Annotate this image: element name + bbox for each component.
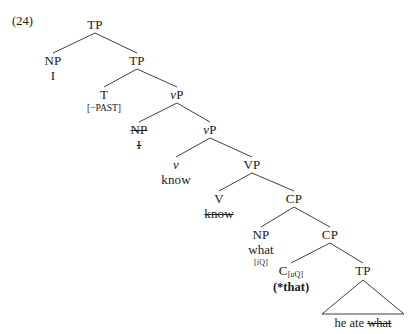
tree-node-tp-root: TP bbox=[87, 18, 103, 33]
tree-node-v-head: V know bbox=[204, 192, 233, 221]
tree-edge bbox=[104, 69, 137, 87]
tree-edge bbox=[261, 207, 294, 227]
node-label: CP bbox=[286, 192, 302, 207]
tree-node-c-head: C[uQ] (*that) bbox=[273, 264, 309, 294]
node-label: C[uQ] bbox=[273, 264, 309, 280]
tree-edge bbox=[294, 207, 330, 227]
tree-node-vp-big: VP bbox=[243, 158, 260, 173]
node-label: vP bbox=[203, 123, 216, 138]
node-word: I bbox=[130, 138, 147, 153]
node-label: v bbox=[161, 158, 190, 173]
node-label: TP bbox=[355, 264, 371, 279]
tree-node-v-little: v know bbox=[161, 158, 190, 187]
node-label: V bbox=[204, 192, 233, 207]
triangle-text: he ate what bbox=[335, 316, 392, 331]
node-label: TP bbox=[129, 54, 145, 69]
tree-edge bbox=[330, 243, 363, 263]
tree-node-vp-little-bar: vP bbox=[203, 123, 216, 138]
node-feature-iq: [iQ] bbox=[248, 259, 274, 268]
node-label: VP bbox=[243, 158, 260, 173]
node-word-that: (*that) bbox=[273, 280, 309, 294]
tree-node-vp-little-top: vP bbox=[170, 88, 183, 103]
node-label: NP bbox=[44, 54, 61, 69]
tree-node-cp-bar: CP bbox=[322, 228, 338, 243]
tree-edge bbox=[139, 103, 177, 122]
tree-edge bbox=[210, 138, 252, 157]
tree-node-tp-embedded: TP bbox=[355, 264, 371, 279]
tree-edge bbox=[219, 173, 252, 191]
tree-edge bbox=[176, 138, 210, 157]
tree-edges bbox=[0, 0, 410, 334]
tree-edge bbox=[137, 69, 177, 87]
node-label: NP bbox=[248, 228, 274, 243]
node-word: what bbox=[248, 243, 274, 258]
node-label: vP bbox=[170, 88, 183, 103]
tree-edge bbox=[291, 243, 330, 263]
node-label: T bbox=[87, 88, 121, 103]
triangle-abbreviation bbox=[322, 280, 404, 314]
tree-node-np-subject: NP I bbox=[44, 54, 61, 83]
tree-node-t-head: T [−PAST] bbox=[87, 88, 121, 113]
tree-node-cp-top: CP bbox=[286, 192, 302, 207]
node-word: I bbox=[44, 69, 61, 84]
tree-edge bbox=[252, 173, 294, 191]
example-number: (24) bbox=[12, 14, 33, 29]
tree-edge bbox=[177, 103, 210, 122]
node-label: CP bbox=[322, 228, 338, 243]
node-word: know bbox=[161, 173, 190, 188]
tree-edge bbox=[95, 33, 137, 53]
node-label: NP bbox=[130, 123, 147, 138]
tree-edge bbox=[53, 33, 95, 53]
syntax-tree-diagram: (24) TP NP I TP T [−PAST] vP NP I vP v k… bbox=[0, 0, 410, 334]
node-word: know bbox=[204, 207, 233, 222]
node-feature-past: [−PAST] bbox=[87, 103, 121, 114]
node-label: TP bbox=[87, 18, 103, 33]
tree-node-np-trace: NP I bbox=[130, 123, 147, 152]
tree-node-tp-bar: TP bbox=[129, 54, 145, 69]
tree-node-np-what: NP what [iQ] bbox=[248, 228, 274, 268]
